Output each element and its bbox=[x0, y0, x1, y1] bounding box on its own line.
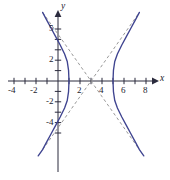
x-tick-label: 4 bbox=[99, 86, 104, 95]
x-axis-arrow-icon bbox=[152, 78, 159, 85]
x-axis-label: x bbox=[160, 74, 164, 84]
y-tick-label: -4 bbox=[46, 118, 54, 127]
hyperbola-figure: -4-22468 52-2-4 x y bbox=[0, 0, 170, 180]
x-tick-label: 6 bbox=[121, 86, 126, 95]
right-branch bbox=[113, 12, 144, 156]
x-tick-label: -2 bbox=[30, 86, 38, 95]
x-tick-label: -4 bbox=[8, 86, 16, 95]
y-axis-label: y bbox=[61, 2, 65, 12]
y-tick-label: 2 bbox=[49, 55, 54, 64]
y-tick-label: -2 bbox=[46, 97, 54, 106]
x-tick-label: 8 bbox=[143, 86, 148, 95]
x-tick-label: 2 bbox=[77, 86, 82, 95]
y-tick-label: 5 bbox=[49, 24, 54, 33]
